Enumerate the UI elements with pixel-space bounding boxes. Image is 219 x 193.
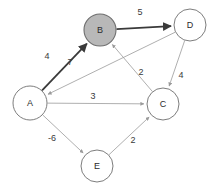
edge-weight-C-B: 2 [138,67,143,77]
edge-weight-A-C: 3 [90,91,95,101]
node-C[interactable]: C [147,88,179,120]
node-E[interactable]: E [81,150,113,182]
node-label-C: C [160,99,167,109]
edge-weight-A-E: -6 [48,133,56,143]
edge-weight-D-C: 4 [178,70,183,80]
edge-line-E-C [109,117,149,155]
node-layer: A B C D E [13,9,206,182]
edge-weight-E-C: 2 [130,135,135,145]
edge-weight-D-A: 7 [67,57,72,67]
edge-line-C-B [112,44,152,91]
node-label-E: E [94,161,100,171]
node-A[interactable]: A [13,86,47,120]
node-label-D: D [187,20,194,30]
node-D[interactable]: D [174,9,206,41]
node-label-A: A [27,98,33,108]
edge-line-A-C [47,103,144,104]
edge-line-B-D [116,26,171,29]
edge-weight-B-D: 5 [137,7,142,17]
graph-diagram: 4 5 7 2 4 3 -6 2 A B C D E [0,0,219,193]
edge-weight-A-B: 4 [44,51,49,61]
node-B[interactable]: B [84,14,116,46]
node-label-B: B [97,25,103,35]
